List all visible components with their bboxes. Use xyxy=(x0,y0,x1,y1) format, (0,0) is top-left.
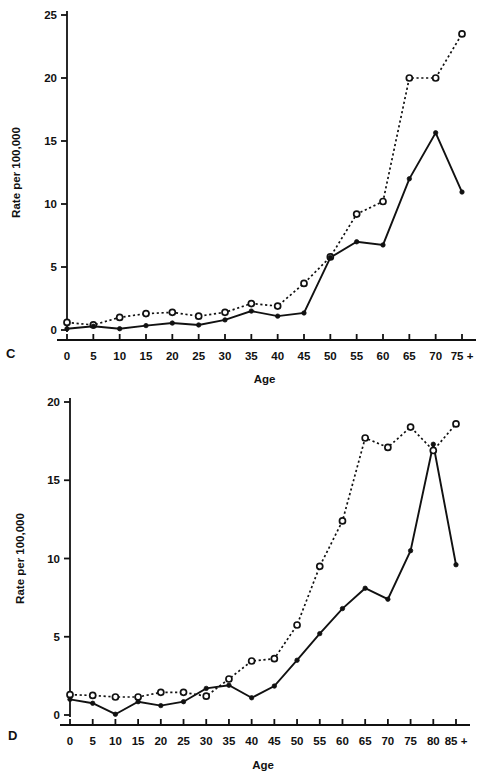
y-axis-tick-label: 25 xyxy=(44,9,57,21)
y-axis-tick-label: 10 xyxy=(44,198,57,210)
data-point-solid-filled-circle xyxy=(68,697,72,701)
x-axis-tick-label: 40 xyxy=(245,735,258,747)
data-point-dashed-open-circle xyxy=(301,280,307,286)
x-axis-tick-label: 15 xyxy=(132,735,145,747)
chart-panel-c: 0510152025Rate per 100,00005101520253035… xyxy=(0,0,492,392)
data-point-dashed-open-circle xyxy=(362,435,368,441)
figure-container: 0510152025Rate per 100,00005101520253035… xyxy=(0,0,492,782)
x-axis-tick-label: 25 xyxy=(192,350,205,362)
x-axis-tick-label: 85 + xyxy=(445,735,468,747)
x-axis-tick-label: 80 xyxy=(427,735,440,747)
data-point-dashed-open-circle xyxy=(203,693,209,699)
data-point-solid-filled-circle xyxy=(227,683,231,687)
data-point-solid-filled-circle xyxy=(204,686,208,690)
data-point-dashed-open-circle xyxy=(339,518,345,524)
x-axis-tick-label: 50 xyxy=(291,735,304,747)
x-axis-tick-label: 75 + xyxy=(451,350,474,362)
data-point-solid-filled-circle xyxy=(328,255,332,259)
data-point-dashed-open-circle xyxy=(430,448,436,454)
y-axis-tick-label: 5 xyxy=(54,631,61,643)
data-point-dashed-open-circle xyxy=(181,689,187,695)
y-axis-tick-label: 20 xyxy=(47,396,60,408)
data-point-solid-filled-circle xyxy=(91,701,95,705)
data-point-dashed-open-circle xyxy=(317,563,323,569)
x-axis-tick-label: 55 xyxy=(350,350,363,362)
data-point-dashed-open-circle xyxy=(385,444,391,450)
data-point-solid-filled-circle xyxy=(363,586,367,590)
data-point-dashed-open-circle xyxy=(380,198,386,204)
data-point-solid-filled-circle xyxy=(113,712,117,716)
data-point-solid-filled-circle xyxy=(159,703,163,707)
data-point-solid-filled-circle xyxy=(272,684,276,688)
series-line-dashed-open-circle xyxy=(67,34,462,325)
y-axis-tick-label: 5 xyxy=(51,261,58,273)
x-axis-tick-label: 20 xyxy=(154,735,167,747)
data-point-solid-filled-circle xyxy=(386,597,390,601)
data-point-solid-filled-circle xyxy=(354,240,358,244)
y-axis-tick-label: 0 xyxy=(54,709,60,721)
chart-panel-d: 05101520Rate per 100,0000510152025303540… xyxy=(0,380,492,782)
x-axis-tick-label: 0 xyxy=(64,350,70,362)
x-axis-tick-label: 60 xyxy=(336,735,349,747)
data-point-dashed-open-circle xyxy=(433,75,439,81)
data-point-solid-filled-circle xyxy=(136,699,140,703)
data-point-solid-filled-circle xyxy=(181,699,185,703)
data-point-dashed-open-circle xyxy=(249,658,255,664)
data-point-solid-filled-circle xyxy=(249,309,253,313)
x-axis-tick-label: 70 xyxy=(429,350,442,362)
data-point-solid-filled-circle xyxy=(117,327,121,331)
series-line-dashed-open-circle xyxy=(70,424,456,697)
data-point-dashed-open-circle xyxy=(143,311,149,317)
data-point-dashed-open-circle xyxy=(408,424,414,430)
x-axis-tick-label: 10 xyxy=(113,350,126,362)
data-point-solid-filled-circle xyxy=(407,177,411,181)
data-point-solid-filled-circle xyxy=(340,606,344,610)
data-point-dashed-open-circle xyxy=(117,314,123,320)
x-axis-title: Age xyxy=(252,759,274,771)
x-axis-tick-label: 70 xyxy=(381,735,394,747)
x-axis-tick-label: 5 xyxy=(90,735,97,747)
x-axis-tick-label: 35 xyxy=(223,735,236,747)
y-axis-title: Rate per 100,000 xyxy=(14,513,26,604)
data-point-dashed-open-circle xyxy=(226,676,232,682)
x-axis-tick-label: 15 xyxy=(140,350,153,362)
data-point-dashed-open-circle xyxy=(248,301,254,307)
data-point-solid-filled-circle xyxy=(381,243,385,247)
data-point-solid-filled-circle xyxy=(460,190,464,194)
y-axis-tick-label: 10 xyxy=(47,553,60,565)
data-point-solid-filled-circle xyxy=(454,563,458,567)
data-point-solid-filled-circle xyxy=(408,548,412,552)
data-point-solid-filled-circle xyxy=(275,314,279,318)
data-point-solid-filled-circle xyxy=(302,311,306,315)
data-point-solid-filled-circle xyxy=(65,327,69,331)
data-point-solid-filled-circle xyxy=(431,442,435,446)
chart-c-svg: 0510152025Rate per 100,00005101520253035… xyxy=(0,0,492,392)
x-axis-tick-label: 30 xyxy=(200,735,213,747)
data-point-dashed-open-circle xyxy=(406,75,412,81)
data-point-dashed-open-circle xyxy=(196,313,202,319)
data-point-solid-filled-circle xyxy=(170,321,174,325)
x-axis-tick-label: 0 xyxy=(67,735,73,747)
y-axis-tick-label: 0 xyxy=(51,324,57,336)
data-point-dashed-open-circle xyxy=(64,319,70,325)
y-axis-tick-label: 15 xyxy=(44,135,57,147)
x-axis-tick-label: 75 xyxy=(404,735,417,747)
data-point-solid-filled-circle xyxy=(144,323,148,327)
data-point-solid-filled-circle xyxy=(249,696,253,700)
x-axis-tick-label: 20 xyxy=(166,350,179,362)
data-point-dashed-open-circle xyxy=(453,421,459,427)
y-axis-tick-label: 20 xyxy=(44,72,57,84)
data-point-dashed-open-circle xyxy=(90,692,96,698)
data-point-dashed-open-circle xyxy=(275,303,281,309)
data-point-solid-filled-circle xyxy=(91,324,95,328)
x-axis-tick-label: 65 xyxy=(403,350,416,362)
x-axis-tick-label: 5 xyxy=(90,350,97,362)
y-axis-title: Rate per 100,000 xyxy=(10,127,22,218)
x-axis-tick-label: 45 xyxy=(268,735,281,747)
data-point-dashed-open-circle xyxy=(169,309,175,315)
x-axis-tick-label: 30 xyxy=(219,350,232,362)
x-axis-tick-label: 60 xyxy=(377,350,390,362)
x-axis-tick-label: 35 xyxy=(245,350,258,362)
x-axis-tick-label: 25 xyxy=(177,735,190,747)
data-point-dashed-open-circle xyxy=(271,656,277,662)
